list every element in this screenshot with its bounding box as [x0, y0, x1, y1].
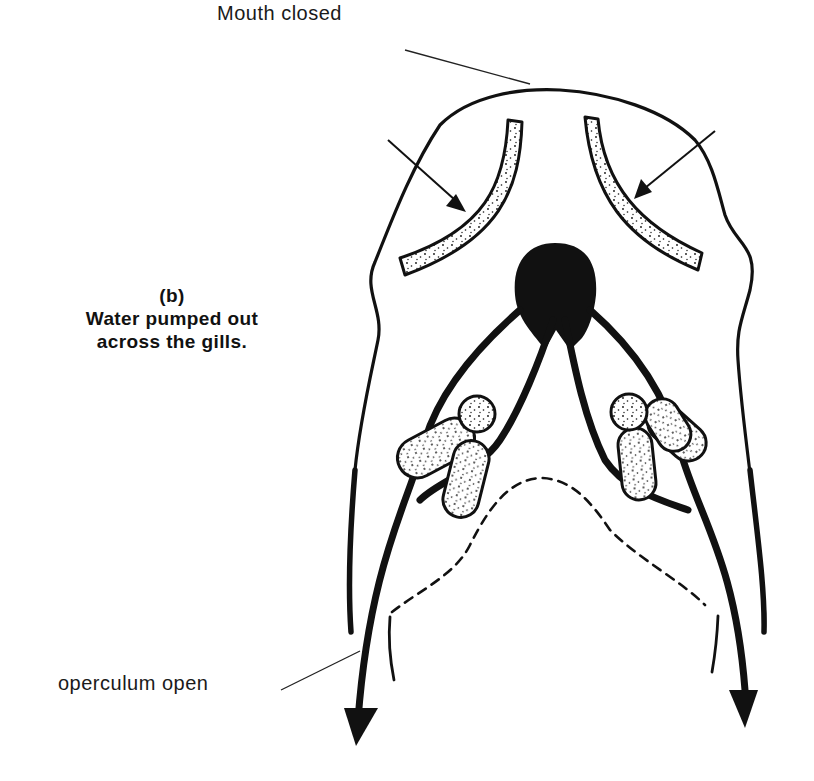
operculum-leader-line [281, 651, 360, 690]
inflow-arrow-right [634, 131, 715, 199]
mouth-leader-line [405, 50, 530, 84]
operculum-flap-right [712, 616, 718, 672]
buccal-mass [515, 243, 597, 350]
gill-filaments-right [611, 392, 714, 501]
gill-arch-left [400, 120, 522, 275]
fish-gill-diagram [0, 0, 814, 781]
operculum-edge-left [350, 470, 355, 632]
operculum-edge-right [750, 470, 764, 632]
operculum-flap-left [389, 617, 394, 680]
outflow-arrow-right [729, 690, 758, 728]
outflow-arrow-left [344, 708, 378, 746]
water-flow-channel-left [358, 310, 520, 720]
head-outline [350, 90, 765, 632]
